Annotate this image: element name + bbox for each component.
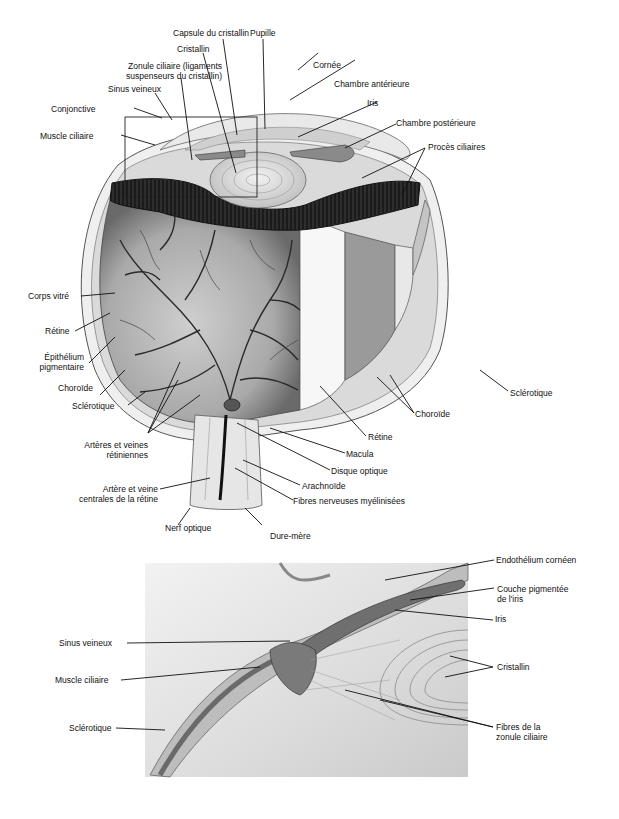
label-corps-vitre: Corps vitré (28, 291, 69, 301)
label-artere-centrale-line1: Artère et veine (40, 484, 158, 494)
label-muscle-ciliaire-bottom: Muscle ciliaire (55, 675, 108, 685)
label-endothelium-corneen: Endothélium cornéen (496, 555, 576, 565)
label-chambre-anterieure: Chambre antérieure (334, 79, 410, 89)
label-arteres-line2: rétiniennes (60, 450, 148, 460)
label-zonule-line1: Zonule ciliaire (ligaments (82, 61, 222, 71)
label-chambre-posterieure: Chambre postérieure (396, 118, 476, 128)
label-sinus-veineux: Sinus veineux (108, 84, 161, 94)
label-arteres-line1: Artères et veines (60, 440, 148, 450)
label-couche-pigmentee-iris: Couche pigmentée de l'iris (497, 584, 568, 604)
label-fibres-myelinisees: Fibres nerveuses myélinisées (293, 496, 405, 506)
label-choroide-right: Choroïde (415, 409, 450, 419)
label-arteres-veines-retiniennes: Artères et veines rétiniennes (60, 440, 148, 460)
label-muscle-ciliaire: Muscle ciliaire (40, 131, 93, 141)
label-arachnoide: Arachnoïde (302, 481, 345, 491)
label-sclerotique-left: Sclérotique (72, 401, 115, 411)
label-couche-line1: Couche pigmentée (497, 584, 568, 594)
label-couche-line2: de l'iris (497, 594, 568, 604)
label-sinus-veineux-bottom: Sinus veineux (59, 638, 112, 648)
label-epithelium-line1: Épithélium (20, 352, 84, 362)
label-sclerotique-bottom: Sclérotique (69, 723, 112, 733)
label-cornee: Cornée (313, 60, 341, 70)
label-fibres-line2: zonule ciliaire (496, 732, 548, 742)
label-fibres-zonule: Fibres de la zonule ciliaire (496, 722, 548, 742)
label-conjonctive: Conjonctive (51, 104, 95, 114)
label-epithelium-pigmentaire: Épithélium pigmentaire (20, 352, 84, 372)
label-dure-mere: Dure-mère (270, 531, 311, 541)
label-choroide-left: Choroïde (58, 383, 93, 393)
label-artere-veine-centrales: Artère et veine centrales de la rétine (40, 484, 158, 504)
label-zonule-ciliaire: Zonule ciliaire (ligaments suspenseurs d… (82, 61, 222, 81)
label-artere-centrale-line2: centrales de la rétine (40, 494, 158, 504)
label-pupille: Pupille (250, 28, 276, 38)
label-proces-ciliaires: Procès ciliaires (428, 142, 485, 152)
label-epithelium-line2: pigmentaire (20, 362, 84, 372)
label-zonule-line2: suspenseurs du cristallin) (82, 71, 222, 81)
label-retine-right: Rétine (368, 432, 393, 442)
label-iris-bottom: Iris (495, 614, 506, 624)
iridocorneal-angle-illustration (145, 563, 468, 777)
label-capsule-cristallin: Capsule du cristallin (173, 28, 249, 38)
label-retine-left: Rétine (45, 326, 70, 336)
label-macula: Macula (346, 449, 373, 459)
label-fibres-line1: Fibres de la (496, 722, 548, 732)
label-disque-optique: Disque optique (331, 466, 388, 476)
label-iris: Iris (367, 98, 378, 108)
label-cristallin-bottom: Cristallin (497, 662, 530, 672)
label-nerf-optique: Nerf optique (165, 523, 211, 533)
label-cristallin: Cristallin (177, 44, 210, 54)
label-sclerotique-right: Sclérotique (510, 388, 553, 398)
